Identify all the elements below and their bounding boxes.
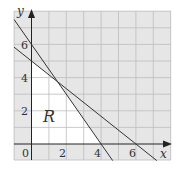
region-label: R — [42, 107, 55, 126]
x-tick-6: 6 — [129, 147, 136, 160]
x-axis-label: x — [160, 147, 167, 161]
y-tick-4: 4 — [21, 72, 28, 85]
y-axis-label: y — [16, 4, 24, 18]
y-tick-6: 6 — [21, 39, 28, 52]
y-tick-2: 2 — [21, 105, 28, 118]
x-tick-4: 4 — [94, 147, 101, 160]
linear-programming-graph: y x 0 2 4 6 2 4 6 R — [0, 0, 183, 169]
origin-label: 0 — [22, 147, 29, 160]
x-tick-2: 2 — [59, 147, 66, 160]
